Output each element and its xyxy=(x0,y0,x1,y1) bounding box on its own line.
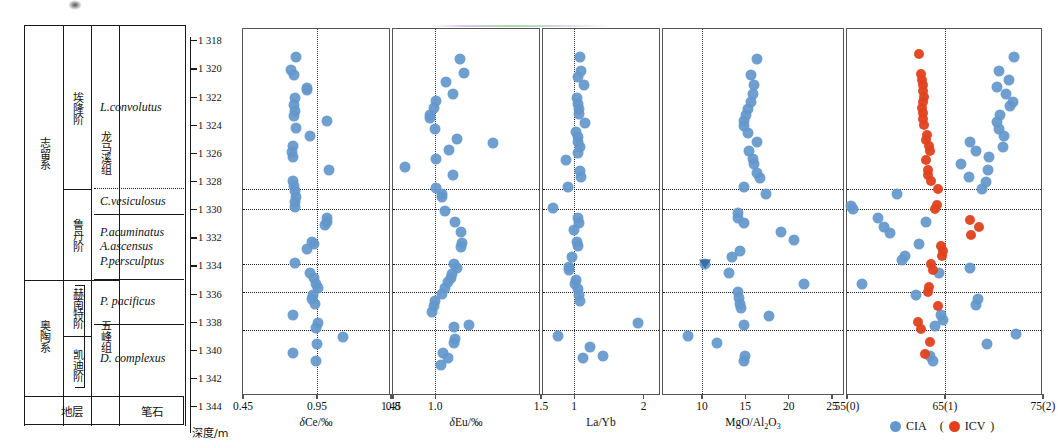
axis-title-3: MgO/Al2O3 xyxy=(663,416,843,431)
data-point-0-0-36 xyxy=(288,309,299,320)
data-point-0-0-9 xyxy=(321,116,332,127)
xtick-label-1-1: 1.0 xyxy=(428,400,442,412)
strat-stage-0-label: 埃隆阶 xyxy=(71,92,82,125)
data-point-2-0-36 xyxy=(598,350,609,361)
data-point-0-0-2 xyxy=(289,70,300,81)
marker-line-0-2 xyxy=(243,264,389,265)
data-point-1-0-13 xyxy=(399,161,410,172)
data-point-4-0-17 xyxy=(963,171,974,182)
data-point-4-0-0 xyxy=(1008,52,1019,63)
xtick-2-1 xyxy=(643,394,644,399)
xtick-3-3 xyxy=(831,394,832,399)
chart-panel-2: 12La/Yb xyxy=(542,29,660,395)
data-point-0-0-39 xyxy=(337,332,348,343)
marker-line-0-0 xyxy=(243,189,389,190)
data-point-3-0-10 xyxy=(752,136,763,147)
xtick-1-1 xyxy=(435,394,436,399)
data-point-3-0-37 xyxy=(739,356,750,367)
graptolite-zone-1: C.vesiculosus xyxy=(94,189,184,214)
data-point-2-0-3 xyxy=(578,80,589,91)
data-point-1-0-18 xyxy=(439,205,450,216)
depth-tick-1326 xyxy=(190,153,197,154)
data-point-1-0-10 xyxy=(488,138,499,149)
depth-tick-1338 xyxy=(190,322,197,323)
data-point-3-0-17 xyxy=(761,188,772,199)
data-point-4-0-20 xyxy=(891,188,902,199)
chart-legend: CIA ( ICV ) xyxy=(890,419,994,434)
depth-tick-1328 xyxy=(190,181,197,182)
depth-tick-label-1324: 1 324 xyxy=(198,119,222,130)
data-point-1-0-3 xyxy=(448,88,459,99)
data-point-1-0-14 xyxy=(448,170,459,181)
legend-close-paren: ) xyxy=(990,419,994,434)
data-point-4-1-35 xyxy=(925,337,935,347)
marker-line-3-1 xyxy=(663,209,843,210)
data-point-4-1-32 xyxy=(933,301,943,311)
data-point-2-0-31 xyxy=(574,295,585,306)
data-point-4-0-24 xyxy=(921,216,932,227)
depth-tick-label-1330: 1 330 xyxy=(198,204,222,215)
data-point-3-0-26 xyxy=(723,267,734,278)
graptolite-zone-0: L.convolutus xyxy=(94,26,184,189)
depth-tick-1318 xyxy=(190,40,197,41)
xtick-label-0-0: 0.45 xyxy=(233,400,253,412)
data-point-4-0-22 xyxy=(847,204,858,215)
data-point-1-0-0 xyxy=(454,53,465,64)
data-point-4-0-38 xyxy=(930,321,941,332)
data-point-4-1-15 xyxy=(921,155,931,165)
data-point-4-1-0 xyxy=(914,49,924,59)
scan-artifact-rainbow xyxy=(430,25,610,27)
legend-label-icv: ICV xyxy=(965,419,986,434)
graptolite-zone-4: D. complexus xyxy=(94,325,184,393)
xtick-label-2-1: 2 xyxy=(641,400,647,412)
data-point-2-0-32 xyxy=(633,318,644,329)
data-point-4-0-27 xyxy=(913,239,924,250)
graptolite-zone-2-name-0: P.acuminatus xyxy=(100,225,164,240)
data-point-0-0-40 xyxy=(312,339,323,350)
xtick-label-4-2: 75(2) xyxy=(1031,400,1056,412)
depth-tick-label-1338: 1 338 xyxy=(198,316,222,327)
data-point-3-0-35 xyxy=(711,337,722,348)
marker-line-3-0 xyxy=(663,189,843,190)
depth-axis: 1 3181 3201 3221 3241 3261 3281 3301 332… xyxy=(190,25,242,425)
depth-tick-label-1322: 1 322 xyxy=(198,91,222,102)
xtick-label-4-1: 65(1) xyxy=(933,400,958,412)
xtick-label-2-0: 1 xyxy=(571,400,577,412)
data-point-0-0-28 xyxy=(289,257,300,268)
data-point-3-0-24 xyxy=(727,252,738,263)
xtick-0-0 xyxy=(242,394,243,399)
data-point-4-0-42 xyxy=(928,356,939,367)
graptolite-zone-1-name-0: C.vesiculosus xyxy=(100,194,166,209)
data-point-0-0-35 xyxy=(309,298,320,309)
data-point-2-0-0 xyxy=(575,52,586,63)
graptolite-zone-3: P. pacificus xyxy=(94,280,184,325)
graptolite-zone-3-name-0: P. pacificus xyxy=(100,294,155,309)
depth-tick-1336 xyxy=(190,294,197,295)
data-point-1-0-11 xyxy=(444,145,455,156)
xtick-3-2 xyxy=(788,394,789,399)
legend-label-cia: CIA xyxy=(906,419,927,434)
depth-tick-label-1342: 1 342 xyxy=(198,373,222,384)
plot-area-2 xyxy=(543,29,659,394)
depth-tick-label-1340: 1 340 xyxy=(198,344,222,355)
graptolite-zone-2-name-1: A.ascensus xyxy=(100,239,153,254)
strat-stage-1: 鲁丹阶 xyxy=(63,190,91,280)
data-point-4-1-22 xyxy=(965,215,975,225)
marker-line-1-1 xyxy=(393,209,539,210)
marker-line-4-0 xyxy=(847,189,1041,190)
data-point-1-0-36 xyxy=(449,337,460,348)
depth-tick-1332 xyxy=(190,237,197,238)
xtick-label-3-0: 10 xyxy=(696,400,708,412)
data-point-4-1-10 xyxy=(919,120,929,130)
data-point-4-0-26 xyxy=(885,228,896,239)
depth-tick-1330 xyxy=(190,209,197,210)
data-point-4-1-36 xyxy=(920,349,930,359)
graptolite-zone-4-name-0: D. complexus xyxy=(100,351,165,366)
reference-line-2 xyxy=(574,29,575,394)
data-point-4-0-30 xyxy=(965,263,976,274)
stage-bracket xyxy=(75,285,85,388)
reference-line-1 xyxy=(435,29,436,394)
data-point-1-0-20 xyxy=(455,226,466,237)
data-point-3-0-15 xyxy=(755,173,766,184)
data-point-3-0-31 xyxy=(736,302,747,313)
